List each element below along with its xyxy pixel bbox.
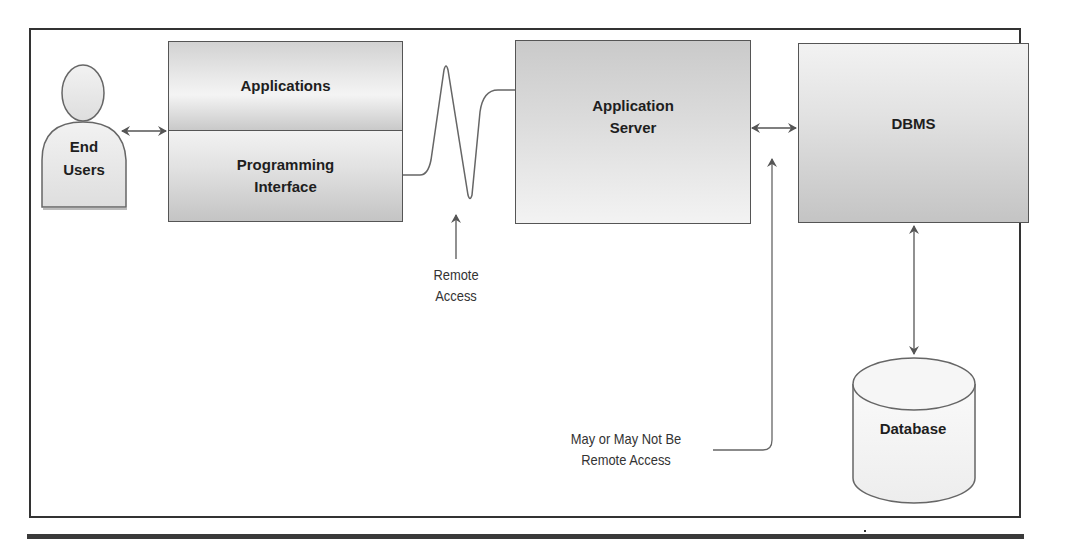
- remote-access-annotation: Remote Access: [422, 264, 491, 306]
- applications-box: Applications: [168, 41, 403, 131]
- end-users-label-line1: End: [42, 136, 126, 159]
- application-server-box: Application Server: [515, 40, 751, 224]
- dbms-box: DBMS: [798, 43, 1029, 223]
- programming-interface-label-line1: Programming: [237, 154, 335, 176]
- end-users-label-line2: Users: [42, 159, 126, 182]
- database-label: Database: [851, 420, 975, 437]
- dbms-label: DBMS: [891, 113, 935, 135]
- application-server-label-line1: Application: [592, 95, 674, 117]
- remote-access-line2: Access: [422, 285, 491, 306]
- may-or-may-not-line1: May or May Not Be: [557, 428, 695, 449]
- programming-interface-label-line2: Interface: [254, 176, 317, 198]
- applications-label: Applications: [240, 75, 330, 97]
- programming-interface-box: Programming Interface: [168, 130, 403, 222]
- end-users-label: End Users: [42, 136, 126, 181]
- stray-dot: [864, 530, 866, 532]
- may-or-may-not-line2: Remote Access: [557, 449, 695, 470]
- may-or-may-not-remote-annotation: May or May Not Be Remote Access: [557, 428, 695, 470]
- remote-wave-connector: [403, 66, 515, 199]
- application-server-label-line2: Server: [610, 117, 657, 139]
- bottom-separator-rule: [27, 534, 1024, 539]
- remote-access-line1: Remote: [422, 264, 491, 285]
